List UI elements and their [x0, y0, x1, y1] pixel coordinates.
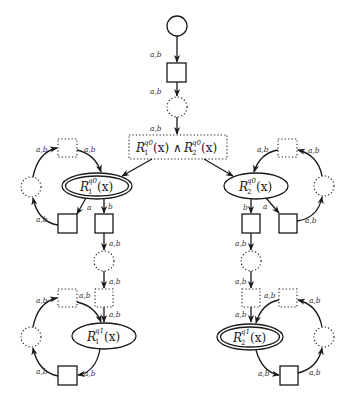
edge-label: b — [108, 202, 113, 211]
dotted-transition-right-mid — [242, 289, 260, 307]
transition-t0 — [167, 63, 186, 82]
dotted-transition-left-top — [58, 139, 77, 157]
dotted-place-left-mid — [94, 251, 114, 271]
svg-text:(x): (x) — [104, 330, 120, 344]
svg-text:(x): (x) — [97, 180, 113, 194]
petri-net-diagram: a,b a,b a,b R q0 1 (x) ∧ R q0 2 (x) R q0… — [0, 0, 358, 404]
edge-label: a,b — [36, 367, 48, 376]
edge-label: a,b — [79, 291, 91, 300]
transition-left-b — [95, 214, 113, 233]
r1-q0-label: R q0 1 (x) — [79, 177, 113, 196]
dotted-transition-right-bottom — [279, 289, 297, 307]
svg-text:2: 2 — [241, 339, 245, 347]
dotted-place-right — [314, 176, 334, 196]
r2-q0-label: R q0 2 (x) — [238, 177, 272, 196]
edge-label: b — [243, 203, 248, 212]
edge-conj-to-r2q0 — [204, 159, 233, 176]
svg-text:q1: q1 — [95, 327, 104, 335]
dotted-place-right-mid — [241, 251, 261, 271]
dotted-place-right-bottom — [314, 327, 334, 347]
transition-left-a — [58, 214, 77, 233]
dotted-transition-left-mid — [95, 289, 113, 307]
dotted-transition-right-top — [278, 139, 297, 157]
edge-label: a,b — [309, 368, 321, 377]
edge-label: a,b — [109, 310, 121, 319]
edge-r1q0-a — [77, 198, 86, 214]
edge-label: a,b — [36, 145, 48, 154]
edge-label: a,b — [258, 369, 270, 378]
edge-r2q0-a — [266, 198, 279, 213]
svg-text:2: 2 — [192, 149, 196, 157]
svg-text:1: 1 — [144, 149, 148, 157]
edge-label: a,b — [235, 277, 247, 286]
edge-label: a,b — [36, 215, 48, 224]
edge-label: a,b — [150, 87, 162, 96]
edge-label: a,b — [308, 146, 320, 155]
edge-label: a,b — [84, 145, 96, 154]
transition-right-a — [279, 214, 297, 233]
edge-label: a,b — [305, 216, 317, 225]
edge-label: a,b — [109, 239, 121, 248]
svg-text:(x): (x) — [201, 141, 217, 155]
transition-right-bottom — [280, 366, 298, 385]
edge-label: a,b — [109, 277, 121, 286]
edge-label: a,b — [150, 50, 162, 59]
edge-label: a,b — [150, 124, 162, 133]
svg-text:(x): (x) — [250, 331, 266, 345]
svg-text:q1: q1 — [241, 328, 250, 336]
dotted-place-left — [21, 177, 41, 197]
dotted-place-left-bottom — [21, 327, 41, 347]
initial-place — [167, 16, 187, 36]
svg-text:∧: ∧ — [173, 141, 182, 155]
dotted-transition-left-bottom — [58, 289, 77, 307]
edge-label: a,b — [84, 369, 96, 378]
r2-q1-label: R q1 2 (x) — [232, 328, 266, 347]
svg-text:2: 2 — [247, 188, 251, 196]
edge-label: a,b — [309, 296, 321, 305]
svg-text:1: 1 — [88, 188, 92, 196]
edge-label: a — [263, 202, 267, 211]
edge-label: a,b — [257, 145, 269, 154]
edge-label: a — [87, 203, 91, 212]
svg-text:(x): (x) — [153, 141, 169, 155]
edge-label: a,b — [235, 239, 247, 248]
dotted-place-p1 — [167, 97, 187, 117]
edge-label: a,b — [235, 310, 247, 319]
edge-conj-to-r1q0 — [122, 159, 152, 176]
r1-q1-label: R q1 1 (x) — [86, 327, 120, 346]
transition-right-b — [242, 214, 260, 233]
transition-left-bottom — [58, 366, 77, 385]
edge-label: a,b — [36, 296, 48, 305]
svg-text:(x): (x) — [256, 180, 272, 194]
svg-text:1: 1 — [95, 338, 99, 346]
edge-label: a,b — [264, 291, 276, 300]
